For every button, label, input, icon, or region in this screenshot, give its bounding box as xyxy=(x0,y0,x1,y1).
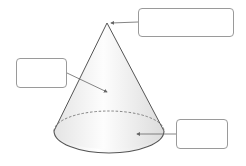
curved-surface-label-box[interactable] xyxy=(16,58,67,88)
base-label-box[interactable] xyxy=(176,119,228,149)
apex-arrow xyxy=(111,22,138,23)
apex-label-box[interactable] xyxy=(138,8,234,37)
cone-lateral-surface xyxy=(54,23,164,152)
